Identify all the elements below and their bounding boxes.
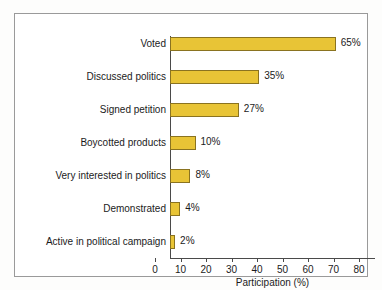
x-tick-mark bbox=[283, 258, 284, 262]
bar-boycotted-products[interactable] bbox=[170, 136, 196, 150]
x-tick-label: 10 bbox=[169, 263, 193, 276]
category-label: Very interested in politics bbox=[55, 168, 166, 184]
x-tick-mark bbox=[232, 258, 233, 262]
x-tick-mark bbox=[334, 258, 335, 262]
bar-row: 35% bbox=[170, 69, 374, 85]
bar-value-label: 10% bbox=[201, 134, 221, 150]
category-label: Signed petition bbox=[100, 102, 166, 118]
x-tick-label: 40 bbox=[245, 263, 269, 276]
category-label: Voted bbox=[140, 36, 166, 52]
bar-very-interested-in-politics[interactable] bbox=[170, 169, 190, 183]
x-tick-mark bbox=[308, 258, 309, 262]
chart-frame: Voted Discussed politics Signed petition… bbox=[14, 13, 368, 277]
x-tick-label: 70 bbox=[322, 263, 346, 276]
bar-row: 27% bbox=[170, 102, 374, 118]
bar-row: 65% bbox=[170, 36, 374, 52]
bar-row: 10% bbox=[170, 135, 374, 151]
bar-value-label: 2% bbox=[180, 233, 194, 249]
bar-demonstrated[interactable] bbox=[170, 202, 180, 216]
bar-row: 4% bbox=[170, 201, 374, 217]
category-label: Demonstrated bbox=[103, 201, 166, 217]
x-tick-mark bbox=[257, 258, 258, 262]
bar-value-label: 8% bbox=[195, 167, 209, 183]
category-label: Discussed politics bbox=[87, 69, 166, 85]
bar-row: 2% bbox=[170, 234, 374, 250]
x-tick-label: 80 bbox=[347, 263, 371, 276]
x-tick-label: 60 bbox=[296, 263, 320, 276]
x-tick-label: 30 bbox=[220, 263, 244, 276]
x-tick-mark bbox=[155, 258, 156, 262]
x-tick-mark bbox=[181, 258, 182, 262]
category-axis-labels: Voted Discussed politics Signed petition… bbox=[33, 36, 166, 258]
x-axis-title: Participation (%) bbox=[170, 277, 375, 288]
x-tick-label: 50 bbox=[271, 263, 295, 276]
bar-value-label: 4% bbox=[185, 200, 199, 216]
figure: Voted Discussed politics Signed petition… bbox=[0, 0, 382, 290]
x-tick-mark bbox=[359, 258, 360, 262]
bar-row: 8% bbox=[170, 168, 374, 184]
bar-signed-petition[interactable] bbox=[170, 103, 239, 117]
bar-value-label: 65% bbox=[341, 35, 361, 51]
x-axis-spine bbox=[170, 258, 375, 259]
bar-value-label: 27% bbox=[244, 101, 264, 117]
bar-value-label: 35% bbox=[264, 68, 284, 84]
bar-discussed-politics[interactable] bbox=[170, 70, 259, 84]
category-label: Active in political campaign bbox=[46, 234, 166, 250]
x-tick-mark bbox=[206, 258, 207, 262]
bar-voted[interactable] bbox=[170, 37, 336, 51]
x-tick-label: 0 bbox=[143, 263, 167, 276]
x-tick-label: 20 bbox=[194, 263, 218, 276]
plot-area: 65% 35% 27% 10% 8% 4% bbox=[170, 36, 374, 258]
bar-active-in-political-campaign[interactable] bbox=[170, 235, 175, 249]
category-label: Boycotted products bbox=[80, 135, 166, 151]
